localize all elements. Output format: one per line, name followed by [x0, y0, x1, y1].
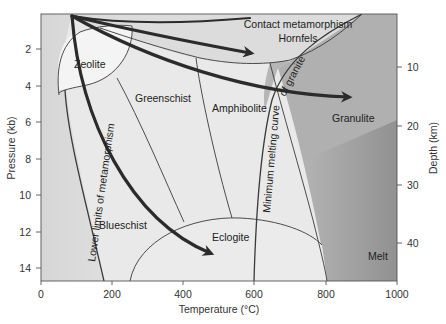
x-tick-label: 800 — [317, 288, 335, 300]
d-tick-label: 20 — [407, 120, 419, 132]
label-blueschist: Blueschist — [99, 219, 147, 231]
y-axis-right-title: Depth (km) — [427, 122, 439, 174]
x-tick-label: 600 — [245, 288, 263, 300]
label-zeolite: Zeolite — [74, 58, 106, 70]
d-tick-label: 10 — [407, 61, 419, 73]
metamorphic-facies-diagram: Contact metamorphism Hornfels Zeolite Gr… — [0, 0, 446, 324]
x-tick-label: 200 — [103, 288, 121, 300]
p-tick-label: 8 — [25, 153, 31, 165]
p-tick-label: 4 — [25, 80, 31, 92]
x-tick-label: 1000 — [385, 288, 409, 300]
label-eclogite: Eclogite — [212, 231, 250, 243]
p-tick-label: 12 — [19, 226, 31, 238]
y-axis-left-title: Pressure (kb) — [5, 116, 17, 179]
label-greenschist: Greenschist — [135, 92, 191, 104]
d-tick-label: 40 — [407, 237, 419, 249]
x-tick-label: 400 — [174, 288, 192, 300]
label-hornfels: Hornfels — [278, 32, 317, 44]
label-amphibolite: Amphibolite — [212, 102, 267, 114]
label-melt: Melt — [368, 250, 388, 262]
p-tick-label: 6 — [25, 116, 31, 128]
p-tick-label: 14 — [19, 262, 31, 274]
x-axis-title: Temperature (°C) — [179, 303, 260, 315]
label-granulite: Granulite — [332, 112, 375, 124]
label-contact-metamorphism: Contact metamorphism — [244, 18, 353, 30]
p-tick-label: 10 — [19, 189, 31, 201]
p-tick-label: 2 — [25, 43, 31, 55]
d-tick-label: 30 — [407, 179, 419, 191]
x-tick-label: 0 — [38, 288, 44, 300]
